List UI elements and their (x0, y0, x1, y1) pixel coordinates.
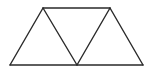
edge-CA (10, 8, 43, 65)
trapezoid-triangles-figure (0, 0, 152, 81)
edge-DB (77, 8, 110, 65)
edge-AD (43, 8, 77, 65)
edge-BE (110, 8, 143, 65)
diagram-canvas (0, 0, 152, 81)
